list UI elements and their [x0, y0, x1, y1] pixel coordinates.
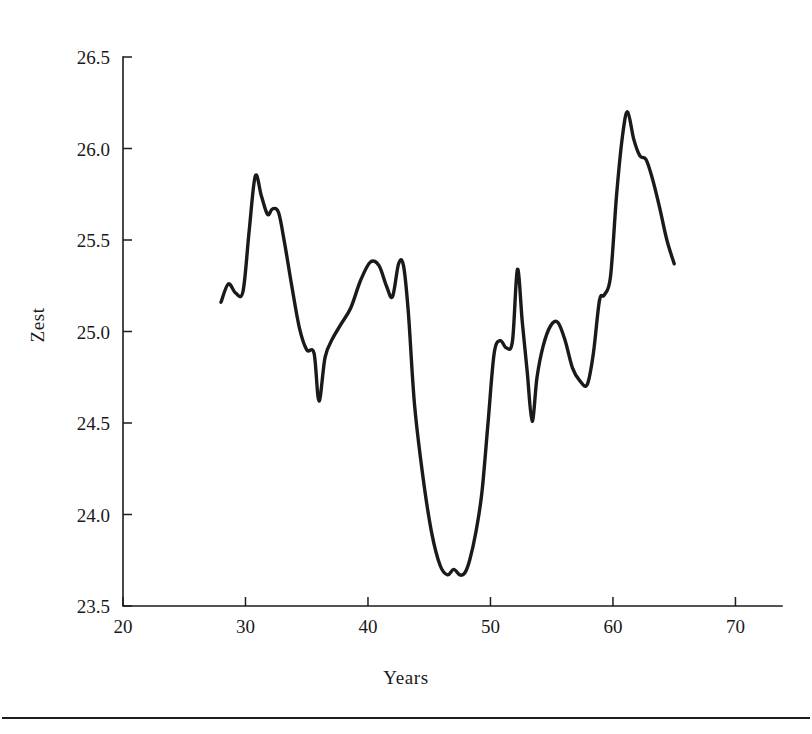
x-tick-label: 40 — [358, 616, 377, 637]
y-axis-tick-labels: 23.524.024.525.025.526.026.5 — [77, 47, 110, 617]
x-axis-tick-labels: 203040506070 — [114, 616, 745, 637]
x-axis-title: Years — [383, 667, 428, 688]
y-tick-label: 23.5 — [77, 596, 110, 617]
y-tick-label: 25.0 — [77, 322, 110, 343]
axis-spines — [123, 57, 782, 606]
y-tick-label: 25.5 — [77, 230, 110, 251]
x-tick-label: 60 — [603, 616, 622, 637]
y-tick-label: 26.0 — [77, 139, 110, 160]
y-tick-label: 24.5 — [77, 413, 110, 434]
y-tick-label: 26.5 — [77, 47, 110, 68]
x-tick-label: 70 — [726, 616, 745, 637]
chart-axes — [123, 57, 782, 606]
data-line-zest — [221, 112, 674, 575]
y-tick-label: 24.0 — [77, 505, 110, 526]
data-series-group — [221, 112, 674, 575]
y-axis-title: Zest — [27, 307, 48, 342]
line-chart: 203040506070 23.524.024.525.025.526.026.… — [0, 0, 812, 734]
x-tick-label: 50 — [481, 616, 500, 637]
x-tick-label: 20 — [114, 616, 133, 637]
chart-figure: 203040506070 23.524.024.525.025.526.026.… — [0, 0, 812, 734]
x-tick-label: 30 — [236, 616, 255, 637]
